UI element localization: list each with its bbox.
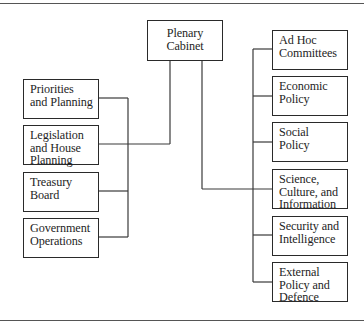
- box-ad-hoc-committees: Ad Hoc Committees: [272, 30, 348, 70]
- box-label-line: External: [279, 266, 347, 279]
- box-label-line: Legislation: [30, 129, 98, 142]
- box-label-line: Science,: [279, 173, 347, 186]
- box-label-line: Government: [30, 222, 98, 235]
- box-label-line: Policy: [279, 139, 347, 152]
- box-label-line: Defence: [279, 291, 347, 304]
- box-label-line: Security and: [279, 220, 347, 233]
- box-external-policy-and-defence: External Policy and Defence: [272, 262, 348, 302]
- box-label-line: Policy: [279, 93, 347, 106]
- box-label-line: Information: [279, 198, 347, 211]
- box-plenary-cabinet: Plenary Cabinet: [147, 20, 223, 61]
- box-label-line: Economic: [279, 80, 347, 93]
- box-security-and-intelligence: Security and Intelligence: [272, 216, 348, 256]
- box-label-line: Ad Hoc: [279, 34, 347, 47]
- box-treasury-board: Treasury Board: [23, 172, 99, 212]
- box-label-line: Committees: [279, 47, 347, 60]
- box-label-line: Plenary: [148, 27, 222, 40]
- box-label-line: and Planning: [30, 96, 98, 109]
- box-label-line: Intelligence: [279, 233, 347, 246]
- box-economic-policy: Economic Policy: [272, 76, 348, 116]
- box-science-culture-and-information: Science, Culture, and Information: [272, 169, 348, 209]
- box-label-line: Social: [279, 126, 347, 139]
- box-government-operations: Government Operations: [23, 218, 99, 258]
- box-label-line: Board: [30, 189, 98, 202]
- box-social-policy: Social Policy: [272, 122, 348, 162]
- box-label-line: Priorities: [30, 83, 98, 96]
- box-label-line: Operations: [30, 235, 98, 248]
- box-label-line: Cabinet: [148, 40, 222, 53]
- box-legislation-and-house-planning: Legislation and House Planning: [23, 125, 99, 165]
- box-label-line: Planning: [30, 154, 98, 167]
- box-priorities-and-planning: Priorities and Planning: [23, 79, 99, 119]
- box-label-line: Treasury: [30, 176, 98, 189]
